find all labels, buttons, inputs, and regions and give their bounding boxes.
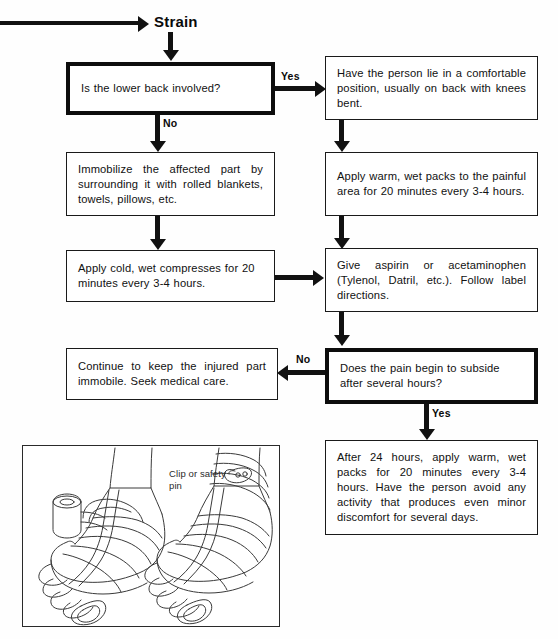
arrowhead-aspirin-to-decision2 (334, 335, 350, 346)
arrowhead-decision2-no (277, 365, 288, 381)
node-lower-back-question-text: Is the lower back involved? (70, 81, 231, 96)
node-pain-subside-question-text: Does the pain begin to subside after sev… (329, 361, 534, 391)
page-title: Strain (154, 13, 198, 30)
arrowhead-lie-to-warm (334, 141, 350, 152)
arrowhead-start-to-decision1 (163, 50, 179, 61)
node-cold-compresses[interactable]: Apply cold, wet compresses for 20 minute… (66, 250, 275, 302)
node-immobilize[interactable]: Immobilize the affected part by surround… (66, 152, 275, 216)
node-warm-packs[interactable]: Apply warm, wet packs to the painful are… (325, 152, 538, 216)
arrowhead-decision2-yes (419, 429, 435, 440)
arrowhead-immobilize-to-cold (150, 239, 166, 250)
arrowhead-decision1-no (150, 141, 166, 152)
bandaged-feet-illustration: Clip or safety pin (22, 445, 280, 627)
node-after-24-hours-text: After 24 hours, apply warm, wet packs fo… (326, 450, 537, 525)
connector-start-to-decision1 (168, 32, 173, 52)
node-warm-packs-text: Apply warm, wet packs to the painful are… (326, 169, 537, 199)
node-lower-back-question[interactable]: Is the lower back involved? (66, 62, 275, 115)
node-lie-comfortable-text: Have the person lie in a comfortable pos… (326, 66, 537, 111)
connector-decision2-no (288, 370, 325, 375)
bandaged-feet-drawing (23, 446, 279, 626)
edge-label-yes-top: Yes (281, 70, 300, 82)
node-cold-compresses-text: Apply cold, wet compresses for 20 minute… (67, 261, 274, 291)
edge-label-no-top: No (163, 117, 177, 129)
edge-label-yes-bottom: Yes (432, 407, 451, 419)
edge-label-no-bottom: No (296, 353, 310, 365)
node-aspirin-text: Give aspirin or acetaminophen (Tylenol, … (326, 258, 537, 303)
flowchart-canvas: Strain Is the lower back involved? Yes N… (0, 0, 558, 639)
node-continue-immobile-text: Continue to keep the injured part immobi… (67, 359, 277, 389)
entry-connector-line (0, 21, 140, 25)
entry-arrowhead (138, 16, 149, 32)
connector-decision1-yes (275, 86, 317, 91)
illustration-caption: Clip or safety pin (169, 468, 227, 492)
connector-cold-to-aspirin (275, 275, 315, 280)
node-after-24-hours[interactable]: After 24 hours, apply warm, wet packs fo… (325, 440, 538, 535)
node-pain-subside-question[interactable]: Does the pain begin to subside after sev… (325, 348, 538, 404)
node-aspirin[interactable]: Give aspirin or acetaminophen (Tylenol, … (325, 248, 538, 312)
arrowhead-cold-to-aspirin (313, 270, 324, 286)
node-lie-comfortable[interactable]: Have the person lie in a comfortable pos… (325, 56, 538, 120)
node-continue-immobile[interactable]: Continue to keep the injured part immobi… (66, 348, 278, 400)
node-immobilize-text: Immobilize the affected part by surround… (67, 162, 274, 207)
